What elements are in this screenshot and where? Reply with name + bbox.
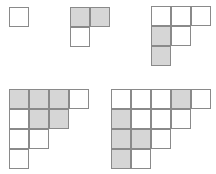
shaded-cell bbox=[70, 7, 90, 27]
cell bbox=[131, 149, 151, 169]
cell bbox=[151, 6, 171, 26]
cell bbox=[171, 109, 191, 129]
cell bbox=[70, 27, 90, 47]
cell bbox=[9, 109, 29, 129]
cell bbox=[9, 7, 29, 27]
shaded-cell bbox=[171, 89, 191, 109]
cell bbox=[191, 89, 211, 109]
cell bbox=[111, 89, 131, 109]
cell bbox=[9, 129, 29, 149]
shaded-cell bbox=[131, 129, 151, 149]
shaded-cell bbox=[111, 149, 131, 169]
cell bbox=[9, 149, 29, 169]
shaded-cell bbox=[151, 26, 171, 46]
shaded-cell bbox=[9, 89, 29, 109]
cell bbox=[191, 6, 211, 26]
cell bbox=[131, 89, 151, 109]
cell bbox=[171, 26, 191, 46]
shaded-cell bbox=[151, 46, 171, 66]
shaded-cell bbox=[49, 89, 69, 109]
cell bbox=[151, 129, 171, 149]
shaded-cell bbox=[111, 129, 131, 149]
cell bbox=[29, 129, 49, 149]
shaded-cell bbox=[111, 109, 131, 129]
cell bbox=[69, 89, 89, 109]
shaded-cell bbox=[49, 109, 69, 129]
shaded-cell bbox=[29, 89, 49, 109]
cell bbox=[131, 109, 151, 129]
cell bbox=[171, 6, 191, 26]
shaded-cell bbox=[90, 7, 110, 27]
cell bbox=[151, 109, 171, 129]
shaded-cell bbox=[29, 109, 49, 129]
cell bbox=[151, 89, 171, 109]
